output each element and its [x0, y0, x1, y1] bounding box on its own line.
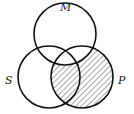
venn-diagram: M S P [0, 0, 134, 114]
label-p: P [117, 74, 126, 87]
label-s: S [5, 74, 13, 87]
shaded-region-p-minus-m [0, 0, 134, 114]
label-m: M [59, 1, 72, 14]
